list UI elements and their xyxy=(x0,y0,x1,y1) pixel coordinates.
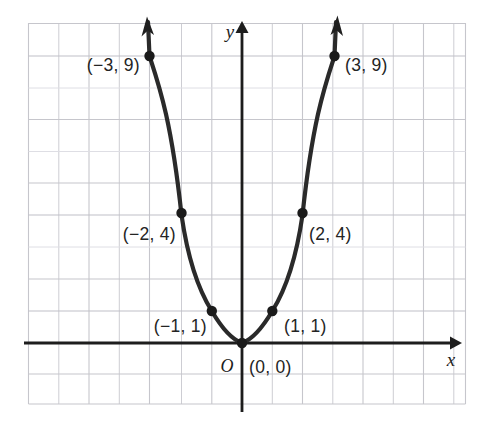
label-0-0: (0, 0) xyxy=(249,357,292,377)
y-axis-label: y xyxy=(224,21,235,42)
graph-figure: (−3, 9) (−2, 4) (−1, 1) (0, 0) (1, 1) (2… xyxy=(0,0,488,432)
point-neg2-4[interactable] xyxy=(176,208,186,218)
x-axis-label: x xyxy=(446,349,456,370)
label-neg2-4: (−2, 4) xyxy=(123,224,176,244)
point-neg1-1[interactable] xyxy=(207,306,217,316)
point-neg3-9[interactable] xyxy=(144,51,154,61)
page-background xyxy=(0,0,488,432)
label-neg1-1: (−1, 1) xyxy=(154,316,207,336)
origin-label: O xyxy=(221,356,234,376)
label-neg3-9: (−3, 9) xyxy=(87,55,140,75)
point-2-4[interactable] xyxy=(297,208,307,218)
label-2-4: (2, 4) xyxy=(309,224,352,244)
point-3-9[interactable] xyxy=(329,51,339,61)
parabola-chart: (−3, 9) (−2, 4) (−1, 1) (0, 0) (1, 1) (2… xyxy=(0,0,488,432)
point-0-0[interactable] xyxy=(237,338,247,348)
label-3-9: (3, 9) xyxy=(345,55,388,75)
label-1-1: (1, 1) xyxy=(284,316,327,336)
point-1-1[interactable] xyxy=(267,306,277,316)
